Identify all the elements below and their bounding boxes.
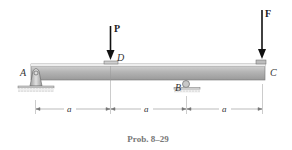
dimension-label-3: a <box>222 104 227 114</box>
figure-caption: Prob. 8–29 <box>127 134 169 144</box>
point-c-label: C <box>270 67 277 78</box>
load-f-label: F <box>265 8 271 19</box>
point-b-label: B <box>175 82 181 93</box>
beam-diagram: P F A D B C a a a Prob. 8–29 <box>0 0 292 150</box>
plate-c <box>256 60 266 64</box>
point-d-label: D <box>116 52 125 63</box>
dimension-label-2: a <box>144 104 149 114</box>
load-p-label: P <box>114 23 120 34</box>
point-a-label: A <box>19 67 27 78</box>
plate-d <box>104 61 118 64</box>
beam <box>31 64 265 80</box>
dimension-label-1: a <box>67 104 72 114</box>
